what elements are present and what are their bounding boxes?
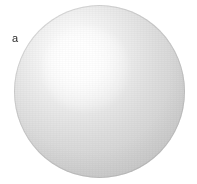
sphere-outline xyxy=(14,5,185,178)
figure-panel: a xyxy=(0,0,197,184)
panel-label: a xyxy=(12,33,18,44)
sphere-object xyxy=(14,5,185,178)
sphere-render-area xyxy=(0,0,197,184)
